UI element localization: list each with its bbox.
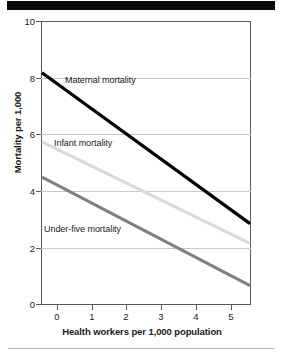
x-tick-label-1: 1 <box>77 312 107 322</box>
line-maternal-mortality <box>42 73 250 224</box>
series-lines <box>41 21 251 305</box>
y-tick-label-2: 2 <box>0 244 35 254</box>
plot-area: 0 2 4 6 8 10 0 1 2 3 4 5 Maternal mortal… <box>41 21 251 305</box>
y-tick-label-0: 0 <box>0 300 35 310</box>
x-tick-1 <box>92 305 93 310</box>
x-tick-3 <box>161 305 162 310</box>
chart-figure: Mortality per 1,000 Health workers per 1… <box>0 10 282 348</box>
series-label-maternal-mortality: Maternal mortality <box>65 76 136 85</box>
x-tick-label-3: 3 <box>146 312 176 322</box>
x-tick-label-0: 0 <box>42 312 72 322</box>
x-tick-4 <box>196 305 197 310</box>
x-tick-0 <box>57 305 58 310</box>
y-tick-label-6: 6 <box>0 130 35 140</box>
series-label-under-five-mortality: Under-five mortality <box>44 225 121 234</box>
x-tick-label-2: 2 <box>111 312 141 322</box>
x-tick-2 <box>126 305 127 310</box>
x-tick-5 <box>231 305 232 310</box>
header-black-bar <box>7 1 275 10</box>
series-label-infant-mortality: Infant mortality <box>54 139 112 148</box>
y-tick-label-4: 4 <box>0 187 35 197</box>
y-tick-label-8: 8 <box>0 74 35 84</box>
y-tick-label-10: 10 <box>0 17 35 27</box>
footer-rule <box>8 348 274 349</box>
x-tick-label-5: 5 <box>216 312 246 322</box>
x-tick-label-4: 4 <box>181 312 211 322</box>
x-axis-title: Health workers per 1,000 population <box>22 326 262 337</box>
